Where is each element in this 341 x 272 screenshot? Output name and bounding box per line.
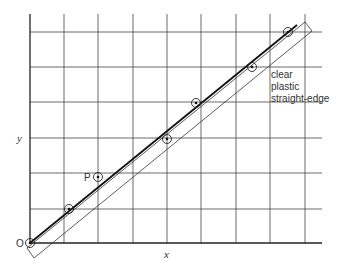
straight-edge-label-line-3: straight-edge (271, 93, 330, 104)
point-dot-icon (68, 208, 71, 211)
plastic-straight-edge (27, 22, 312, 258)
best-fit-line (30, 25, 297, 243)
point-p-label: P (84, 172, 91, 183)
point-dot-icon (166, 138, 169, 141)
point-dot-icon (195, 102, 198, 105)
y-axis-label: y (16, 132, 22, 144)
straight-edge-label-line-1: clear (271, 69, 293, 80)
point-dot-icon (251, 66, 254, 69)
x-axis-label: x (163, 248, 169, 260)
data-point (192, 99, 201, 108)
origin-label: O (16, 238, 24, 249)
best-fit-line-diagram: O P x y clear plastic straight-edge (0, 0, 341, 272)
point-dot-icon (287, 31, 290, 34)
point-dot-icon (97, 176, 100, 179)
straight-edge-label-line-2: plastic (271, 81, 299, 92)
point-dot-icon (29, 242, 32, 245)
